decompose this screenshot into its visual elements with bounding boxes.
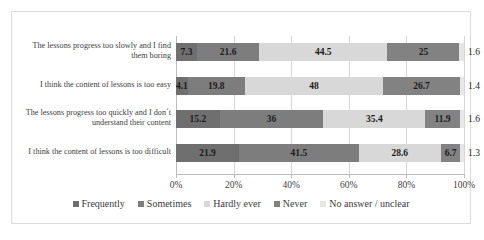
stacked-bar[interactable]: 15.23635.411.9 <box>176 110 464 128</box>
x-axis-tick-label: 60% <box>340 180 357 190</box>
bar-segment[interactable] <box>459 43 464 61</box>
category-label: The lessons progress too slowly and I fi… <box>24 41 176 61</box>
x-axis-tick <box>234 174 235 178</box>
bar-segment[interactable]: 28.6 <box>359 144 441 162</box>
bar-segment[interactable]: 15.2 <box>176 110 220 128</box>
x-axis-tick <box>406 174 407 178</box>
category-label: The lessons progress too quickly and I d… <box>24 108 176 128</box>
x-axis-tick-label: 0% <box>170 180 183 190</box>
category-label: I think the content of lessons is too ea… <box>24 80 176 90</box>
x-axis-tick-label: 40% <box>282 180 299 190</box>
bar-segment[interactable]: 21.9 <box>176 144 239 162</box>
bar-row: 4.119.84826.71.4 <box>176 77 464 95</box>
legend-swatch-icon <box>73 201 79 207</box>
bar-segment[interactable]: 4.1 <box>176 77 188 95</box>
legend-item[interactable]: No answer / unclear <box>320 198 409 209</box>
legend-item[interactable]: Hardly ever <box>204 198 260 209</box>
bar-row: 21.941.528.66.71.3 <box>176 144 464 162</box>
legend-label: Sometimes <box>147 198 191 209</box>
bar-segment[interactable]: 41.5 <box>239 144 359 162</box>
bar-segment[interactable] <box>460 144 464 162</box>
chart-legend: FrequentlySometimesHardly everNeverNo an… <box>12 198 470 209</box>
bar-segment[interactable]: 19.8 <box>188 77 245 95</box>
bar-value-label-outside: 1.6 <box>468 110 480 128</box>
x-axis-tick-label: 20% <box>225 180 242 190</box>
bar-segment[interactable]: 25 <box>387 43 459 61</box>
legend-item[interactable]: Sometimes <box>138 198 191 209</box>
x-axis-tick-label: 100% <box>453 180 475 190</box>
bar-value-label-outside: 1.6 <box>468 43 480 61</box>
x-axis-tick-label: 80% <box>398 180 415 190</box>
stacked-bar[interactable]: 21.941.528.66.7 <box>176 144 464 162</box>
stacked-bar[interactable]: 4.119.84826.7 <box>176 77 464 95</box>
bar-segment[interactable]: 21.6 <box>197 43 259 61</box>
x-axis-tick <box>176 174 177 178</box>
x-axis-tick <box>349 174 350 178</box>
plot-area: 7.321.644.5251.6The lessons progress too… <box>176 36 464 174</box>
legend-swatch-icon <box>320 201 326 207</box>
x-axis-line <box>176 174 464 175</box>
bar-segment[interactable]: 7.3 <box>176 43 197 61</box>
legend-swatch-icon <box>274 201 280 207</box>
bar-segment[interactable]: 35.4 <box>323 110 425 128</box>
x-axis-tick <box>291 174 292 178</box>
bar-segment[interactable]: 36 <box>220 110 324 128</box>
chart-container: 7.321.644.5251.6The lessons progress too… <box>11 11 471 224</box>
legend-label: Frequently <box>82 198 125 209</box>
bar-value-label-outside: 1.4 <box>468 77 480 95</box>
legend-swatch-icon <box>204 201 210 207</box>
bar-segment[interactable]: 48 <box>245 77 383 95</box>
bar-segment[interactable] <box>460 110 465 128</box>
gridline <box>464 36 465 174</box>
legend-label: No answer / unclear <box>329 198 409 209</box>
legend-item[interactable]: Never <box>274 198 307 209</box>
bar-segment[interactable]: 6.7 <box>441 144 460 162</box>
legend-label: Never <box>283 198 307 209</box>
x-axis-tick <box>464 174 465 178</box>
bar-row: 7.321.644.5251.6 <box>176 43 464 61</box>
bar-segment[interactable]: 11.9 <box>425 110 459 128</box>
bar-value-label-outside: 1.3 <box>468 144 480 162</box>
stacked-bar[interactable]: 7.321.644.525 <box>176 43 464 61</box>
legend-item[interactable]: Frequently <box>73 198 125 209</box>
legend-swatch-icon <box>138 201 144 207</box>
bar-segment[interactable]: 26.7 <box>383 77 460 95</box>
bar-segment[interactable] <box>460 77 464 95</box>
bar-row: 15.23635.411.91.6 <box>176 110 464 128</box>
bar-segment[interactable]: 44.5 <box>259 43 387 61</box>
legend-label: Hardly ever <box>213 198 260 209</box>
category-label: I think the content of lessons is too di… <box>24 147 176 157</box>
